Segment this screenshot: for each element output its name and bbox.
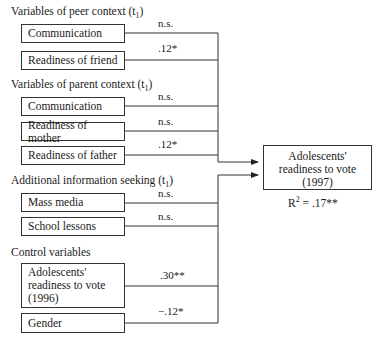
box-peer-readiness-friend: Readiness of friend — [21, 51, 125, 70]
group-label-parent-context: Variables of parent context (t1) — [11, 77, 152, 96]
group-label-peer-context: Variables of peer context (t1) — [11, 4, 143, 23]
coef-mass-media: n.s. — [158, 187, 173, 199]
group-label-control-variables: Control variables — [11, 245, 91, 259]
outcome-label-line: Adolescents' — [264, 150, 371, 163]
box-label-line: readiness to vote — [28, 279, 118, 292]
box-label: Readiness of father — [28, 149, 117, 162]
subscript: 1 — [144, 84, 148, 93]
r2-prefix: R — [288, 197, 296, 209]
coef-peer-communication: n.s. — [158, 17, 173, 29]
subscript: 1 — [136, 11, 140, 20]
group-label-text: Variables of parent context (t — [11, 78, 144, 90]
coef-school-lessons: n.s. — [158, 210, 173, 222]
box-parent-communication: Communication — [21, 97, 125, 116]
group-label-text: Additional information seeking (t — [11, 174, 165, 186]
box-label: Readiness of friend — [28, 54, 117, 67]
box-gender: Gender — [21, 313, 125, 333]
box-label-line: (1996) — [28, 292, 118, 305]
box-label: School lessons — [28, 220, 96, 233]
coef-peer-readiness-friend: .12* — [158, 42, 177, 54]
coef-adolescents-readiness-1996: .30** — [160, 269, 185, 281]
box-label: Communication — [28, 100, 102, 113]
coef-parent-communication: n.s. — [158, 90, 173, 102]
box-label: Communication — [28, 27, 102, 40]
r2-value: = .17** — [300, 197, 338, 209]
coef-parent-readiness-mother: n.s. — [158, 115, 173, 127]
coef-gender: −.12* — [158, 305, 183, 317]
box-label: Readiness of mother — [28, 119, 118, 145]
box-label-line: Adolescents' — [28, 266, 118, 279]
box-parent-readiness-father: Readiness of father — [21, 146, 125, 165]
box-label: Mass media — [28, 196, 83, 209]
box-mass-media: Mass media — [21, 193, 125, 212]
box-school-lessons: School lessons — [21, 217, 125, 236]
coef-parent-readiness-father: .12* — [158, 138, 177, 150]
group-label-text: Variables of peer context (t — [11, 5, 136, 17]
outcome-box: Adolescents' readiness to vote (1997) — [263, 145, 372, 190]
box-label: Gender — [28, 317, 62, 330]
outcome-label-line: (1997) — [264, 176, 371, 189]
outcome-label-line: readiness to vote — [264, 163, 371, 176]
box-parent-readiness-mother: Readiness of mother — [21, 122, 125, 141]
group-label-information-seeking: Additional information seeking (t1) — [11, 173, 173, 192]
box-peer-communication: Communication — [21, 24, 125, 43]
box-adolescents-readiness-1996: Adolescents' readiness to vote (1996) — [21, 263, 125, 308]
r-squared-label: R2 = .17** — [288, 195, 338, 209]
